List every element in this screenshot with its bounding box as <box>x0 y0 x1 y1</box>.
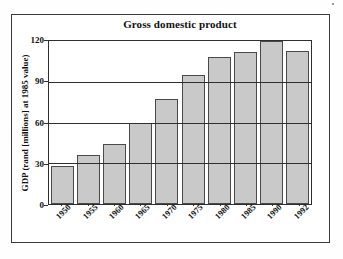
x-tick-slot: 1965 <box>127 206 153 242</box>
bar-1950[interactable] <box>51 166 74 204</box>
bar-1980[interactable] <box>208 57 231 204</box>
bar-1992[interactable] <box>286 51 309 204</box>
bar-1970[interactable] <box>155 99 178 204</box>
y-axis-ticks: 120 90 60 30 0 <box>0 40 44 205</box>
y-tick-label-120: 120 <box>0 35 44 45</box>
figure: Gross domestic product GDP (rand [millio… <box>0 0 343 259</box>
x-tick-slot: 1970 <box>154 206 180 242</box>
gridline-60 <box>49 123 311 124</box>
plot-area <box>48 40 312 205</box>
x-tick-slot: 1980 <box>206 206 232 242</box>
x-tick-slot: 1955 <box>74 206 100 242</box>
gridline-30 <box>49 163 311 164</box>
y-tick-label-30: 30 <box>0 159 44 169</box>
bar-1975[interactable] <box>182 75 205 204</box>
x-tick-slot: 1950 <box>48 206 74 242</box>
y-tick-label-60: 60 <box>0 118 44 128</box>
x-tick-slot: 1985 <box>233 206 259 242</box>
x-tick-slot: 1990 <box>259 206 285 242</box>
y-tick-label-90: 90 <box>0 76 44 86</box>
bar-1985[interactable] <box>234 52 257 204</box>
bar-1960[interactable] <box>103 144 126 204</box>
x-tick-slot: 1975 <box>180 206 206 242</box>
x-axis-ticks: 1950195519601965197019751980198519901992 <box>48 206 312 242</box>
gridline-90 <box>49 82 311 83</box>
x-tick-slot: 1960 <box>101 206 127 242</box>
artifact-speck <box>332 3 334 5</box>
chart-title: Gross domestic product <box>48 18 312 30</box>
y-tick-label-0: 0 <box>0 200 44 210</box>
x-tick-slot: 1992 <box>286 206 312 242</box>
